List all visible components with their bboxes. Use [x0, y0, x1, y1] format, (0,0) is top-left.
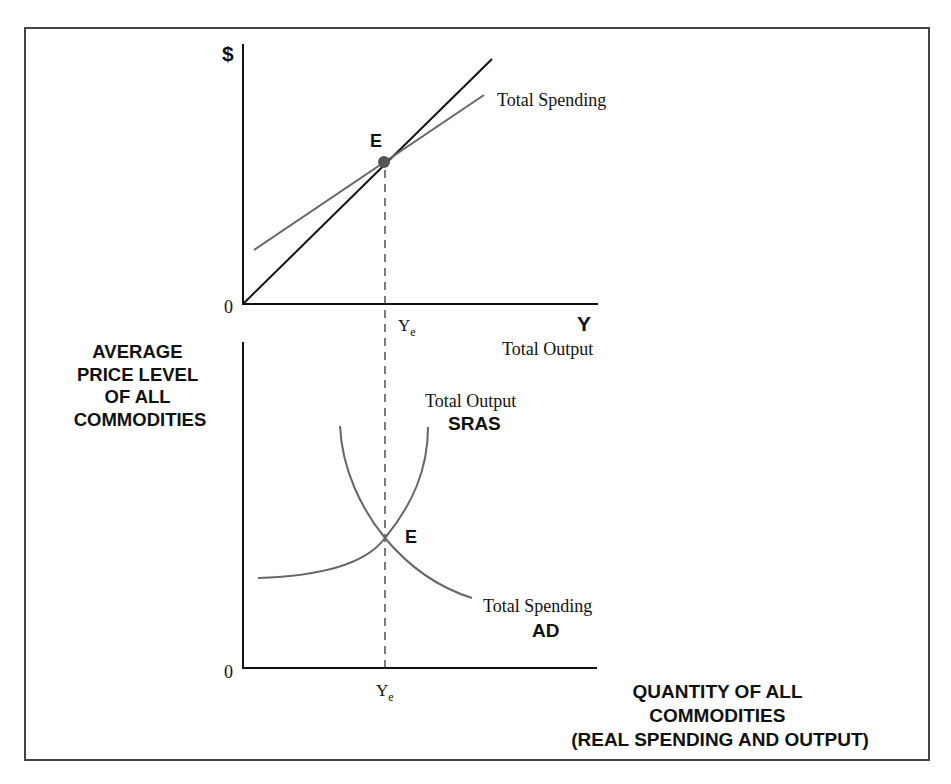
diagram-canvas: $ 0 Total Spending E Ye Y Total Output 0… [0, 0, 951, 784]
ad-caption: Total Spending [483, 596, 592, 616]
top-panel: $ 0 Total Spending E Ye Y Total Output [222, 42, 606, 359]
top-equilibrium-dot [378, 156, 390, 168]
top-ye-label: Ye [398, 316, 416, 339]
top-equilibrium-label: E [370, 131, 382, 151]
bottom-panel: 0 AVERAGE PRICE LEVEL OF ALL COMMODITIES… [74, 341, 869, 750]
top-origin-label: 0 [224, 297, 233, 317]
top-y-axis-label: $ [222, 42, 234, 65]
top-x-axis-letter: Y [577, 312, 591, 335]
top-x-axis-caption: Total Output [502, 339, 593, 359]
sras-caption: Total Output [425, 391, 516, 411]
total-spending-line-label: Total Spending [497, 90, 606, 110]
bottom-origin-label: 0 [224, 662, 233, 682]
ad-name: AD [532, 620, 559, 641]
sras-name: SRAS [448, 413, 501, 434]
total-spending-line [254, 95, 484, 250]
bottom-ye-label: Ye [376, 681, 394, 704]
ad-curve [340, 426, 472, 598]
bottom-y-axis-label: AVERAGE PRICE LEVEL OF ALL COMMODITIES [74, 341, 207, 430]
total-output-45-line [243, 59, 492, 304]
bottom-equilibrium-label: E [405, 527, 417, 547]
bottom-x-axis-label: QUANTITY OF ALL COMMODITIES (REAL SPENDI… [571, 681, 869, 750]
